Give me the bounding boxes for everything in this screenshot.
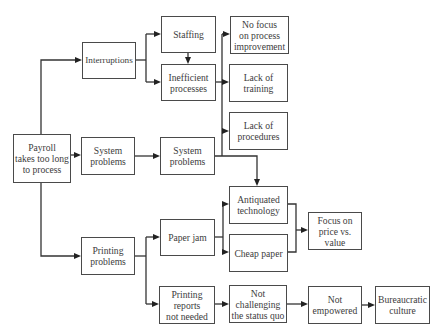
node-system-problems-2: System problems	[160, 137, 215, 175]
arrowhead-icon	[154, 31, 161, 37]
node-system-problems-1: System problems	[81, 137, 135, 175]
node-printing-problems: Printing problems	[81, 237, 135, 275]
node-staffing: Staffing	[161, 16, 216, 53]
arrowhead-icon	[222, 128, 229, 134]
node-lack-procedures: Lack of procedures	[229, 112, 288, 150]
edge-payroll-interruptions	[41, 60, 76, 134]
cause-effect-diagram: Payroll takes too long to process Interr…	[0, 0, 441, 334]
edge-payroll-printing	[41, 182, 75, 256]
edge-join-focus	[288, 204, 296, 252]
arrowhead-icon	[153, 234, 160, 240]
node-cheap-paper: Cheap paper	[229, 234, 288, 272]
node-not-challenging: Not challenging the status quo	[229, 285, 287, 323]
arrowhead-icon	[185, 57, 191, 64]
arrowhead-icon	[154, 79, 161, 85]
node-paper-jam: Paper jam	[160, 219, 215, 256]
arrowhead-icon	[222, 301, 229, 307]
arrowhead-icon	[368, 302, 375, 308]
node-payroll: Payroll takes too long to process	[13, 134, 71, 183]
node-no-focus: No focus on process improvement	[230, 16, 289, 54]
node-printing-reports: Printing reports not needed	[159, 286, 215, 324]
node-bureaucratic-culture: Bureaucratic culture	[375, 286, 430, 324]
arrowhead-icon	[222, 79, 229, 85]
arrowhead-icon	[75, 57, 82, 63]
node-focus-price: Focus on price vs. value	[308, 212, 362, 250]
arrowhead-icon	[74, 253, 81, 259]
node-lack-training: Lack of training	[229, 64, 288, 102]
node-inefficient-processes: Inefficient processes	[161, 64, 216, 101]
node-not-empowered: Not empowered	[308, 286, 362, 324]
arrowhead-icon	[301, 227, 308, 233]
arrowhead-icon	[223, 31, 230, 37]
arrowhead-icon	[152, 301, 159, 307]
arrowhead-icon	[301, 301, 308, 307]
arrowhead-icon	[153, 153, 160, 159]
edge-system-antiquated	[215, 156, 257, 180]
arrowhead-icon	[222, 201, 229, 207]
arrowhead-icon	[74, 152, 81, 158]
node-antiquated-technology: Antiquated technology	[229, 186, 288, 224]
arrowhead-icon	[222, 249, 229, 255]
node-interruptions: Interruptions	[82, 42, 136, 79]
arrowhead-icon	[254, 179, 260, 186]
